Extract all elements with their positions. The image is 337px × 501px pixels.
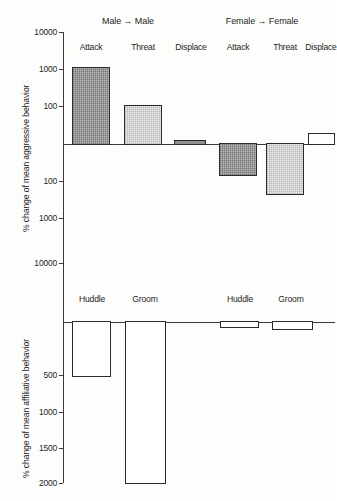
top-y-axis: [63, 32, 64, 250]
bottom-tick-1500: [59, 448, 63, 449]
bar-label-male-threat: Threat: [131, 42, 155, 52]
bottom-tick-500: [59, 375, 63, 376]
top-tick-100-up: [59, 106, 63, 107]
bar-male-threat: [124, 105, 162, 145]
bar-label-male-huddle: Huddle: [79, 294, 105, 304]
bottom-tick-10000: [59, 263, 63, 264]
bar-female-huddle: [220, 321, 259, 328]
bar-female-threat: [266, 143, 304, 195]
bar-male-attack: [72, 67, 110, 145]
bar-label-female-huddle: Huddle: [227, 294, 253, 304]
top-tick-1000-up: [59, 69, 63, 70]
bar-female-attack: [219, 143, 257, 176]
bar-label-male-attack: Attack: [80, 42, 103, 52]
top-y-axis-title: % change of mean aggressive behavior: [21, 85, 31, 232]
bar-label-male-groom: Groom: [132, 294, 157, 304]
bar-male-huddle: [72, 321, 111, 377]
bar-female-groom: [272, 321, 313, 330]
bottom-tick-1000: [59, 412, 63, 413]
bottom-tick-label-2000: 2000: [25, 478, 57, 488]
bar-female-displace: [308, 133, 335, 145]
bottom-tick-2000: [59, 483, 63, 484]
top-tick-label-1000-up: 1000: [25, 64, 57, 74]
top-tick-100-down: [59, 181, 63, 182]
bar-label-male-displace: Displace: [175, 42, 206, 52]
bar-label-female-threat: Threat: [273, 42, 297, 52]
top-tick-1000-down: [59, 218, 63, 219]
bar-male-displace: [174, 140, 206, 145]
bottom-y-axis-title: % change of mean affiliative behavior: [21, 339, 31, 478]
group-header-female-female: Female → Female: [226, 16, 299, 26]
bar-label-female-displace: Displace: [305, 42, 336, 52]
group-header-male-male: Male → Male: [102, 16, 154, 26]
affiliative-behavior-panel: 10000 500 1000 1500 2000 % change of mea…: [0, 250, 336, 501]
bar-label-female-groom: Groom: [278, 294, 303, 304]
bar-male-groom: [125, 321, 166, 484]
bar-label-female-attack: Attack: [227, 42, 250, 52]
bottom-tick-label-10000: 10000: [25, 258, 57, 268]
top-tick-10000: [59, 32, 63, 33]
top-tick-label-10000: 10000: [25, 27, 57, 37]
aggressive-behavior-panel: 10000 1000 100 100 1000 % change of mean…: [0, 0, 336, 250]
bottom-y-axis: [63, 250, 64, 483]
